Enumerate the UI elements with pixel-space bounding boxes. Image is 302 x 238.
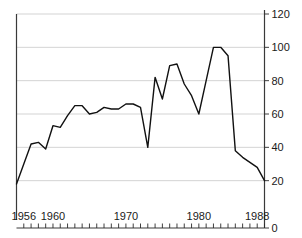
y-axis-tick-labels: 020406080100120	[272, 8, 290, 234]
y-axis-tick-label: 20	[272, 175, 284, 187]
plot-frame	[17, 10, 265, 228]
y-axis-tick-label: 80	[272, 75, 284, 87]
chart-container: 19561960197019801988 020406080100120	[0, 0, 302, 238]
y-axis-tick-label: 100	[272, 41, 290, 53]
x-axis-tick-label: 1970	[114, 210, 138, 222]
y-axis-tick-label: 60	[272, 108, 284, 120]
y-axis-tick-label: 120	[272, 8, 290, 20]
y-axis-tick-label: 40	[272, 141, 284, 153]
line-chart: 19561960197019801988 020406080100120	[0, 0, 302, 238]
x-axis-tick-labels: 19561960197019801988	[12, 210, 270, 222]
x-axis-tick-label: 1980	[187, 210, 211, 222]
gridlines	[17, 14, 265, 181]
data-series-line	[17, 47, 265, 184]
x-axis-tickmarks	[24, 224, 265, 229]
data-series-group	[17, 47, 265, 184]
x-axis-tick-label: 1988	[245, 210, 269, 222]
y-axis-tickmarks	[265, 14, 270, 228]
x-axis-tick-label: 1956	[12, 210, 36, 222]
x-axis-tick-label: 1960	[41, 210, 65, 222]
y-axis-tick-label: 0	[272, 222, 278, 234]
